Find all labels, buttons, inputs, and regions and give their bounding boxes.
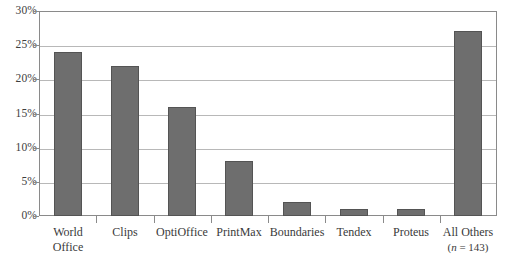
- category-label-line1: Tendex: [336, 225, 371, 239]
- bar-chart: 0%5%10%15%20%25%30% WorldOfficeClipsOpti…: [0, 0, 515, 257]
- category-label-line1: Proteus: [393, 225, 429, 239]
- y-axis-tick-label: 20%: [3, 73, 37, 85]
- x-axis-tick-mark: [154, 216, 155, 223]
- x-axis-tick-mark: [325, 216, 326, 223]
- bar: [397, 209, 425, 216]
- category-label-line2: (n = 143): [425, 240, 511, 255]
- y-axis-tick-mark: [33, 216, 39, 217]
- bar: [111, 66, 139, 216]
- x-axis-tick-mark: [268, 216, 269, 223]
- category-label-line1: World: [53, 225, 83, 239]
- y-axis-tick-label: 5%: [3, 176, 37, 188]
- x-axis-labels: WorldOfficeClipsOptiOfficePrintMaxBounda…: [0, 225, 515, 257]
- bar: [454, 31, 482, 216]
- bar-series: [39, 11, 497, 216]
- category-label-line1: Clips: [112, 225, 137, 239]
- x-axis-tick-mark: [96, 216, 97, 223]
- x-axis-tick-mark: [383, 216, 384, 223]
- bar: [54, 52, 82, 216]
- x-axis-tick-mark: [440, 216, 441, 223]
- category-label-line2: Office: [25, 240, 111, 255]
- bar: [340, 209, 368, 216]
- y-axis-tick-label: 10%: [3, 142, 37, 154]
- bar: [225, 161, 253, 216]
- x-axis-category-label: All Others(n = 143): [425, 225, 511, 254]
- y-axis-tick-label: 0%: [3, 210, 37, 222]
- y-axis: 0%5%10%15%20%25%30%: [0, 0, 37, 257]
- bar: [283, 202, 311, 216]
- y-axis-tick-label: 30%: [3, 5, 37, 17]
- x-axis-tick-mark: [211, 216, 212, 223]
- bar: [168, 107, 196, 216]
- y-axis-tick-label: 25%: [3, 39, 37, 51]
- y-axis-tick-label: 15%: [3, 108, 37, 120]
- category-label-line1: All Others: [443, 225, 493, 239]
